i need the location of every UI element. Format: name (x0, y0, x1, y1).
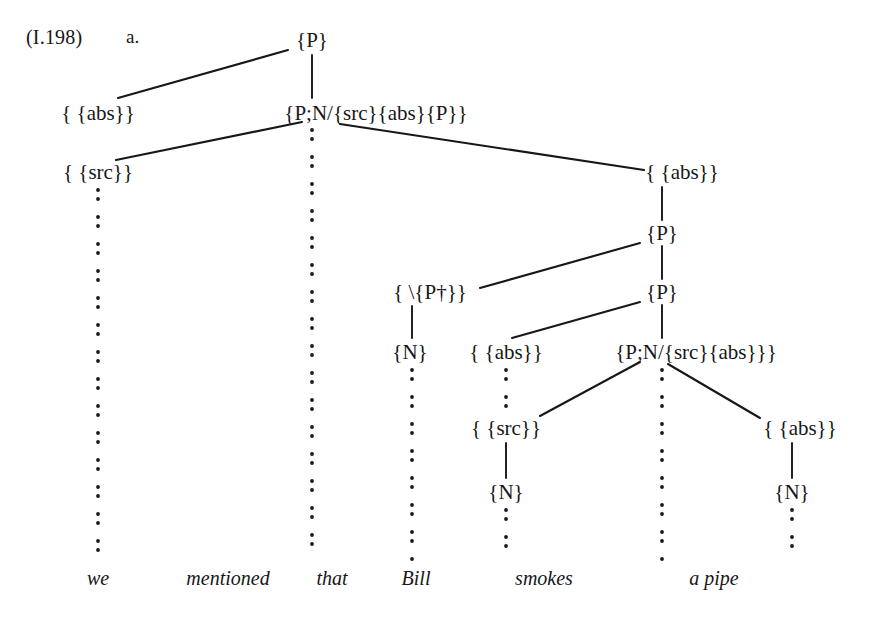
terminal-word-4: smokes (515, 568, 573, 588)
tree-node-n6: {P} (646, 223, 678, 244)
tree-node-n14: {N} (488, 482, 523, 503)
dotted-line-mentioned-column (310, 128, 314, 546)
tree-node-n11: {P;N/{src}{abs}}} (615, 342, 777, 363)
dotted-line-a-pipe-column (790, 508, 794, 548)
tree-node-n4: { {src}} (63, 162, 133, 183)
terminal-word-0: we (87, 568, 109, 588)
syntax-tree-figure: (I.198) a. {P}{P;N/{src}{abs}{P}}{ {abs}… (0, 0, 894, 629)
terminal-word-5: a pipe (689, 568, 738, 588)
dotted-line-smokes-column (660, 368, 664, 561)
tree-edge-n7-n10 (512, 302, 640, 338)
tree-edge-n11-n12 (540, 362, 640, 416)
terminal-word-1: mentioned (186, 568, 269, 588)
dotted-line-we-column (96, 188, 100, 552)
tree-node-n15: {N} (774, 482, 809, 503)
tree-node-n3: { {abs}} (61, 103, 135, 124)
dotted-line-that-column (410, 368, 414, 561)
tree-node-n7: {P} (646, 282, 678, 303)
tree-edge-n11-n13 (668, 364, 760, 418)
tree-node-n1: {P} (296, 30, 328, 51)
dotted-line-bill-mid-column (504, 368, 508, 408)
tree-node-n2: {P;N/{src}{abs}{P}} (284, 103, 467, 124)
tree-node-n12: { {src}} (471, 418, 541, 439)
tree-edge-n1-n3 (118, 50, 288, 98)
tree-node-n5: { {abs}} (645, 162, 719, 183)
tree-node-n8: { \{P†}} (393, 282, 467, 303)
tree-edges-canvas (0, 0, 894, 629)
tree-node-n9: {N} (392, 342, 427, 363)
tree-edge-n6-n8 (480, 243, 640, 288)
terminal-word-3: Bill (402, 568, 431, 588)
tree-edge-n2-n5 (340, 124, 644, 170)
dotted-line-bill-column (504, 508, 508, 548)
terminal-word-2: that (316, 568, 347, 588)
tree-node-n13: { {abs}} (763, 418, 837, 439)
tree-node-n10: { {abs}} (469, 342, 543, 363)
tree-edge-n2-n4 (116, 122, 302, 160)
